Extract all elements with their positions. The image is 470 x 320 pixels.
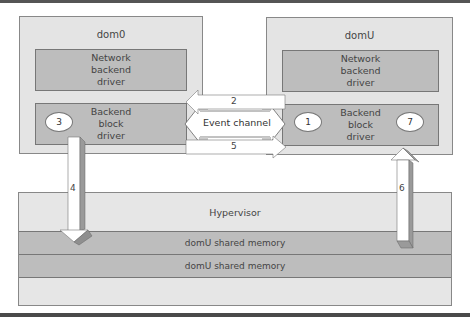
event-channel-label: Event channel	[203, 117, 271, 128]
step-5-label: 5	[231, 141, 237, 151]
step-2-label: 2	[231, 96, 237, 106]
step-4-label: 4	[70, 183, 76, 193]
step-6-label: 6	[399, 183, 405, 193]
arrows-layer	[0, 0, 470, 320]
bottom-rule	[0, 313, 470, 317]
step-4-down-arrow-icon	[60, 137, 92, 245]
step-6-up-arrow-icon	[391, 148, 419, 248]
